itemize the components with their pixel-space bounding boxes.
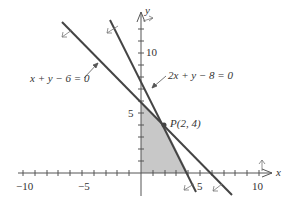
annotation-pointers	[84, 63, 166, 88]
y-tick-label-10: 10	[146, 46, 158, 58]
point-label: P(2, 4)	[169, 117, 201, 130]
chart-svg: x + y − 6 = 0 2x + y − 8 = 0 P(2, 4) y x…	[0, 0, 297, 210]
y-axis-label: y	[144, 4, 150, 16]
x-axis-label: x	[275, 166, 281, 178]
line2-label: 2x + y − 8 = 0	[168, 69, 234, 81]
x-tick-label-10: 10	[252, 180, 264, 192]
x-tick-label-m5: −5	[78, 180, 90, 192]
y-tick-label-5: 5	[128, 107, 134, 119]
x-tick-label-m10: −10	[16, 180, 34, 192]
line1-label: x + y − 6 = 0	[29, 72, 90, 84]
x-tick-label-5: 5	[197, 180, 203, 192]
point-p	[162, 123, 167, 128]
